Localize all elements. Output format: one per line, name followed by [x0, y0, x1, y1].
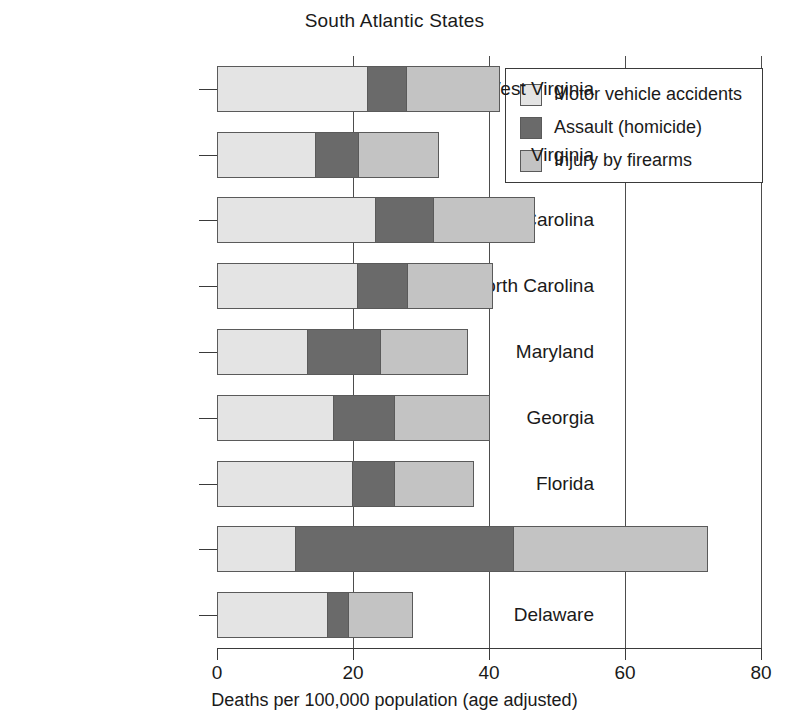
category-tick-district-of-columbia — [199, 549, 217, 550]
bar-segment-north-carolina-assault-homicide- — [357, 263, 408, 309]
bar-segment-west-virginia-motor-vehicle-accidents — [217, 66, 368, 112]
category-tick-west-virginia — [199, 89, 217, 90]
bar-segment-south-carolina-motor-vehicle-accidents — [217, 197, 376, 243]
category-tick-virginia — [199, 155, 217, 156]
bar-segment-virginia-motor-vehicle-accidents — [217, 132, 316, 178]
category-label-georgia: Georgia — [526, 407, 594, 429]
category-label-florida: Florida — [536, 473, 594, 495]
legend-label-assault-homicide: Assault (homicide) — [554, 117, 702, 138]
bar-segment-west-virginia-assault-homicide- — [367, 66, 407, 112]
legend-swatch-assault-homicide — [520, 117, 542, 139]
bar-segment-florida-injury-by-firearms — [394, 461, 474, 507]
chart-title: South Atlantic States — [0, 10, 789, 32]
bar-segment-north-carolina-injury-by-firearms — [407, 263, 493, 309]
bar-segment-delaware-assault-homicide- — [327, 592, 348, 638]
bar-segment-delaware-motor-vehicle-accidents — [217, 592, 328, 638]
x-tick-80 — [761, 648, 762, 660]
bar-segment-virginia-assault-homicide- — [315, 132, 359, 178]
stacked-bar-chart: South Atlantic States Deaths per 100,000… — [0, 0, 789, 728]
bar-segment-north-carolina-motor-vehicle-accidents — [217, 263, 358, 309]
bar-segment-district-of-columbia-assault-homicide- — [295, 526, 515, 572]
bar-segment-delaware-injury-by-firearms — [348, 592, 414, 638]
x-tick-label-20: 20 — [323, 662, 383, 684]
x-tick-label-80: 80 — [731, 662, 789, 684]
bar-segment-georgia-assault-homicide- — [333, 395, 395, 441]
bar-segment-south-carolina-injury-by-firearms — [433, 197, 535, 243]
category-label-maryland: Maryland — [516, 341, 594, 363]
x-axis-label: Deaths per 100,000 population (age adjus… — [0, 690, 789, 711]
bar-segment-florida-assault-homicide- — [352, 461, 395, 507]
bar-segment-georgia-injury-by-firearms — [394, 395, 490, 441]
x-tick-0 — [217, 648, 218, 660]
bar-segment-florida-motor-vehicle-accidents — [217, 461, 353, 507]
bar-segment-virginia-injury-by-firearms — [358, 132, 439, 178]
category-label-delaware: Delaware — [514, 604, 594, 626]
category-tick-georgia — [199, 418, 217, 419]
bar-segment-maryland-assault-homicide- — [307, 329, 381, 375]
bar-segment-district-of-columbia-injury-by-firearms — [513, 526, 707, 572]
x-tick-label-0: 0 — [187, 662, 247, 684]
category-tick-florida — [199, 484, 217, 485]
x-tick-label-40: 40 — [459, 662, 519, 684]
category-tick-north-carolina — [199, 286, 217, 287]
legend-item-assault-homicide: Assault (homicide) — [506, 111, 762, 144]
x-tick-20 — [353, 648, 354, 660]
x-tick-label-60: 60 — [595, 662, 655, 684]
category-tick-maryland — [199, 352, 217, 353]
category-tick-south-carolina — [199, 220, 217, 221]
bar-segment-west-virginia-injury-by-firearms — [406, 66, 499, 112]
bar-segment-district-of-columbia-motor-vehicle-accidents — [217, 526, 296, 572]
bar-segment-maryland-motor-vehicle-accidents — [217, 329, 308, 375]
bar-segment-south-carolina-assault-homicide- — [375, 197, 433, 243]
bar-segment-georgia-motor-vehicle-accidents — [217, 395, 334, 441]
x-tick-40 — [489, 648, 490, 660]
bar-segment-maryland-injury-by-firearms — [380, 329, 467, 375]
x-tick-60 — [625, 648, 626, 660]
category-label-virginia: Virginia — [531, 144, 594, 166]
category-tick-delaware — [199, 615, 217, 616]
